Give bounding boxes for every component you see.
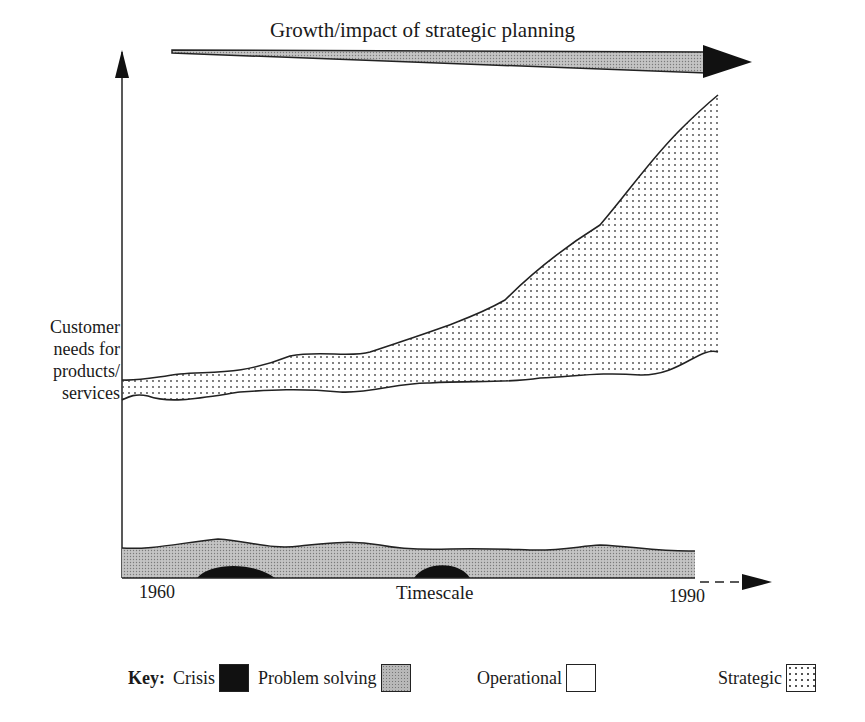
- growth-arrow: [172, 45, 752, 78]
- strategic-band: [122, 95, 718, 400]
- legend-label-strategic: Strategic: [718, 668, 782, 689]
- legend-label-crisis: Crisis: [173, 668, 215, 689]
- operational-swatch-icon: [566, 664, 596, 692]
- crisis-swatch-icon: [219, 664, 249, 692]
- legend-label-problem-solving: Problem solving: [258, 668, 377, 689]
- diagram-canvas: [0, 0, 865, 722]
- problem-solving-swatch-icon: [381, 664, 411, 692]
- strategic-swatch-icon: [786, 664, 816, 692]
- legend-item-strategic: Strategic: [718, 664, 816, 692]
- legend-item-problem-solving: Problem solving: [258, 664, 411, 692]
- diagram-title: Growth/impact of strategic planning: [270, 18, 575, 43]
- y-axis-label: Customer needs for products/ services: [20, 316, 120, 404]
- legend-item-operational: Operational: [477, 664, 596, 692]
- y-axis: [115, 50, 129, 578]
- y-axis-label-line: products/: [20, 360, 120, 382]
- x-end-label: 1990: [669, 586, 705, 607]
- legend-heading: Key:: [128, 668, 165, 689]
- x-axis-label: Timescale: [396, 582, 473, 604]
- x-start-label: 1960: [139, 582, 175, 603]
- y-axis-label-line: needs for: [20, 338, 120, 360]
- y-axis-label-line: Customer: [20, 316, 120, 338]
- y-axis-label-line: services: [20, 382, 120, 404]
- legend-label-operational: Operational: [477, 668, 562, 689]
- legend-key: Key: Crisis: [128, 664, 249, 692]
